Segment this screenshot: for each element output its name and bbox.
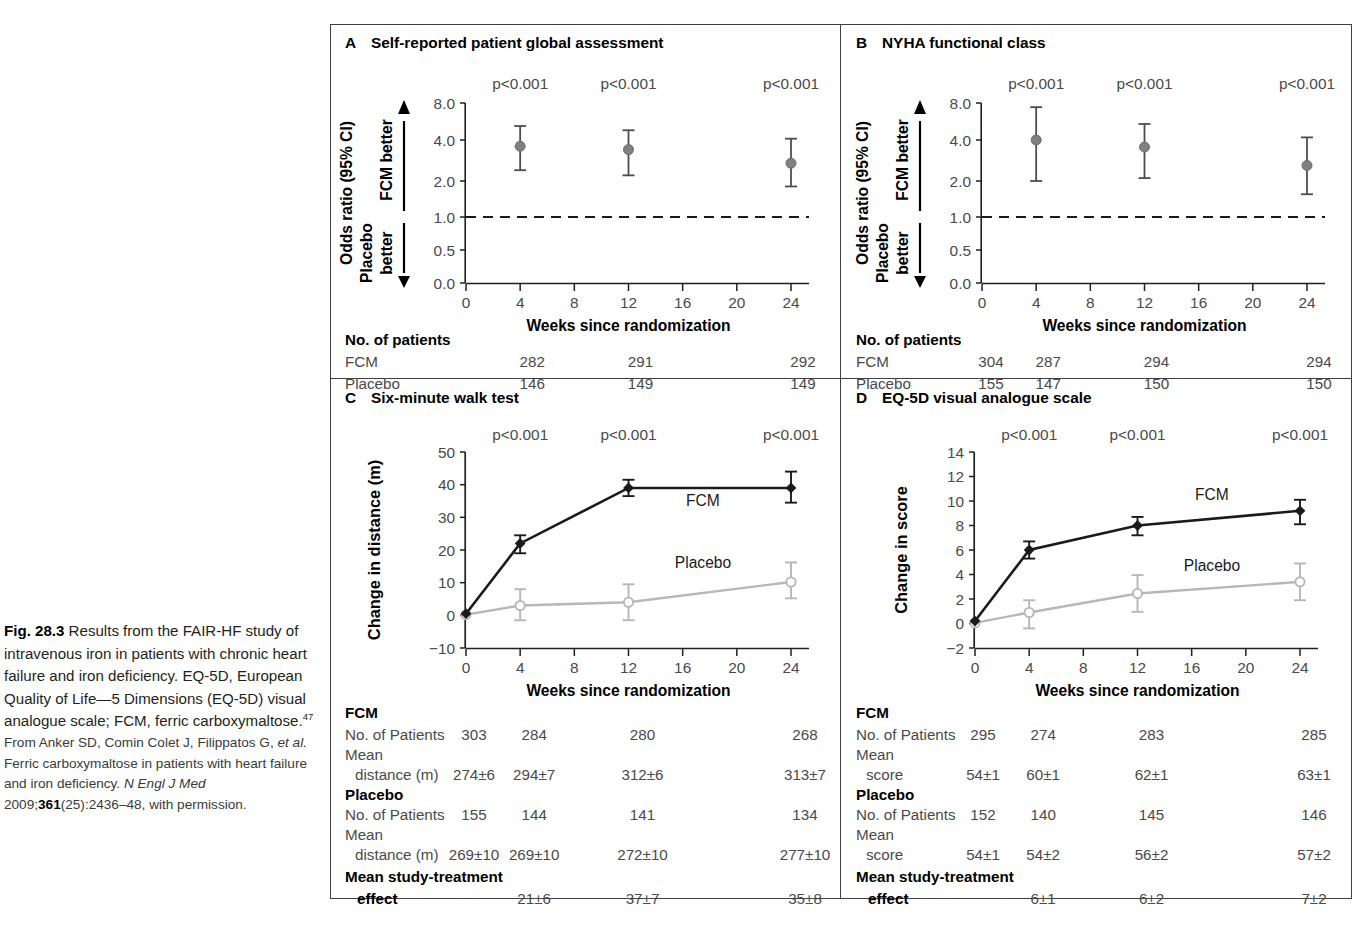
table-group-fcm: FCM xyxy=(345,704,378,721)
table-effect-value: 37±7 xyxy=(626,890,660,907)
data-point-marker-fcm xyxy=(1132,520,1143,531)
x-axis-tick-label: 16 xyxy=(674,294,691,311)
table-cell-value: 284 xyxy=(521,726,546,743)
p-value-annotation: p<0.001 xyxy=(600,426,656,443)
data-point-marker-placebo xyxy=(624,598,633,607)
table-cell-value: 152 xyxy=(970,806,995,823)
y-axis-tick-label: −2 xyxy=(946,640,964,657)
table-group-fcm: FCM xyxy=(856,704,889,721)
table-effect-value: 21±6 xyxy=(517,890,551,907)
table-row-label: No. of Patients xyxy=(856,806,956,823)
table-cell-value: 57±2 xyxy=(1297,846,1331,863)
table-cell-value: 295 xyxy=(970,726,995,743)
table-cell-value: 280 xyxy=(630,726,655,743)
y-axis-tick-label: 2 xyxy=(955,591,964,608)
p-value-annotation: p<0.001 xyxy=(1272,426,1328,443)
table-cell-value: 294±7 xyxy=(513,766,555,783)
table-cell-value: 285 xyxy=(1301,726,1326,743)
y-axis-tick-label: 20 xyxy=(438,542,455,559)
table-cell-value: 145 xyxy=(1139,806,1164,823)
x-axis-tick-label: 20 xyxy=(1244,294,1261,311)
panel-a: ASelf-reported patient global assessment… xyxy=(331,25,840,378)
table-cell-value: 274 xyxy=(1030,726,1055,743)
table-cell-value: 312±6 xyxy=(621,766,663,783)
table-effect-label-2: effect xyxy=(357,890,398,907)
y-axis-tick-label: −10 xyxy=(429,640,455,657)
y-axis-tick-label: 0.0 xyxy=(950,275,971,292)
table-row-label: Mean xyxy=(345,746,383,763)
table-cell-value: 146 xyxy=(1301,806,1326,823)
y-axis-tick-label: 0.5 xyxy=(950,242,971,259)
table-cell-value: 304 xyxy=(978,353,1003,370)
y-axis-tick-label: 0 xyxy=(955,615,964,632)
table-row-label: Mean xyxy=(345,826,383,843)
table-row-label-cont: score xyxy=(866,846,903,863)
x-axis-title: Weeks since randomization xyxy=(526,317,730,334)
source-part-1: From Anker SD, Comin Colet J, Filippatos… xyxy=(4,735,277,750)
figure-caption: Fig. 28.3 Results from the FAIR-HF study… xyxy=(4,620,322,815)
p-value-annotation: p<0.001 xyxy=(1279,75,1335,92)
source-volume: 361 xyxy=(38,797,61,812)
series-label-fcm: FCM xyxy=(1195,486,1229,503)
table-cell-value: 274±6 xyxy=(453,766,495,783)
x-axis-tick-label: 24 xyxy=(782,294,800,311)
data-point-marker xyxy=(1031,135,1041,145)
series-label-fcm: FCM xyxy=(686,492,720,509)
y-axis-tick-label: 8.0 xyxy=(950,95,971,112)
table-row-label: Mean xyxy=(856,826,894,843)
table-cell-value: 292 xyxy=(790,353,815,370)
x-axis-tick-label: 0 xyxy=(978,294,987,311)
fcm-better-arrow-head xyxy=(914,100,926,114)
x-axis-tick-label: 0 xyxy=(462,294,471,311)
panel-c: CSix-minute walk test 50403020100−100481… xyxy=(331,379,840,900)
x-axis-tick-label: 16 xyxy=(674,659,691,676)
caption-source: From Anker SD, Comin Colet J, Filippatos… xyxy=(4,733,322,815)
table-cell-value: 291 xyxy=(628,353,653,370)
table-cell-value: 272±10 xyxy=(617,846,668,863)
table-row-label-cont: score xyxy=(866,766,903,783)
y-axis-tick-label: 0 xyxy=(446,607,455,624)
y-axis-tick-label: 8 xyxy=(955,517,964,534)
table-row-label-cont: distance (m) xyxy=(355,766,439,783)
table-row-label: No. of Patients xyxy=(345,726,445,743)
data-point-marker xyxy=(1302,160,1312,170)
x-axis-tick-label: 24 xyxy=(1291,659,1309,676)
p-value-annotation: p<0.001 xyxy=(492,75,548,92)
placebo-better-label-1: Placebo xyxy=(358,223,375,283)
table-effect-value: 7±2 xyxy=(1301,890,1326,907)
y-axis-tick-label: 6 xyxy=(955,542,964,559)
data-point-marker-placebo xyxy=(786,577,795,586)
x-axis-tick-label: 4 xyxy=(1025,659,1034,676)
p-value-annotation: p<0.001 xyxy=(1116,75,1172,92)
table-cell-value: 54±2 xyxy=(1026,846,1060,863)
y-axis-tick-label: 14 xyxy=(947,444,965,461)
table-cell-value: 294 xyxy=(1306,353,1331,370)
p-value-annotation: p<0.001 xyxy=(763,75,819,92)
fcm-better-label: FCM better xyxy=(378,119,395,200)
source-etal: et al. xyxy=(277,735,306,750)
x-axis-tick-label: 4 xyxy=(516,294,525,311)
table-row-label: No. of Patients xyxy=(856,726,956,743)
table-cell-value: 283 xyxy=(1139,726,1164,743)
table-row-label: Mean xyxy=(856,746,894,763)
p-value-annotation: p<0.001 xyxy=(1008,75,1064,92)
p-value-annotation: p<0.001 xyxy=(1109,426,1165,443)
table-header-label: No. of patients xyxy=(856,331,961,348)
fcm-better-label: FCM better xyxy=(894,119,911,200)
table-cell-value: 134 xyxy=(792,806,817,823)
table-cell-value: 155 xyxy=(461,806,486,823)
x-axis-tick-label: 0 xyxy=(462,659,471,676)
table-cell-value: 140 xyxy=(1030,806,1055,823)
series-label-placebo: Placebo xyxy=(1184,557,1241,574)
y-axis-title: Change in score xyxy=(892,486,910,614)
table-effect-label-2: effect xyxy=(868,890,909,907)
table-effect-value: 6±2 xyxy=(1139,890,1164,907)
placebo-better-arrow-head xyxy=(914,276,926,288)
caption-lead: Fig. 28.3 Results from the FAIR-HF study… xyxy=(4,620,322,733)
table-cell-value: 144 xyxy=(521,806,546,823)
table-cell-value: 282 xyxy=(519,353,544,370)
y-axis-title: Change in distance (m) xyxy=(365,460,383,640)
x-axis-title: Weeks since randomization xyxy=(1042,317,1246,334)
source-journal: N Engl J Med xyxy=(124,776,206,791)
y-axis-tick-label: 2.0 xyxy=(950,173,971,190)
